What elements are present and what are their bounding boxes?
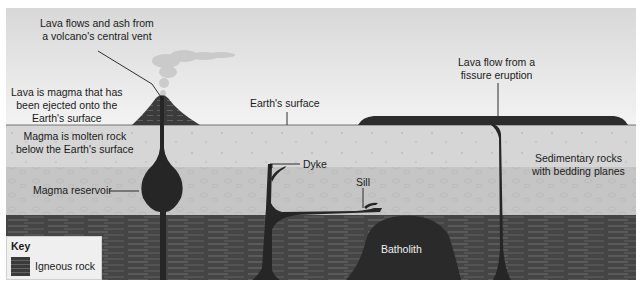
label-magma-definition: Magma is molten rock below the Earth's s… [16, 130, 134, 156]
label-central-vent: Lava flows and ash from a volcano's cent… [40, 17, 154, 43]
igneous-rock-swatch [11, 257, 30, 276]
label-sedimentary-rocks: Sedimentary rocks with bedding planes [532, 152, 625, 178]
label-earth-surface: Earth's surface [250, 97, 320, 110]
label-lava-definition: Lava is magma that has been ejected onto… [11, 86, 122, 125]
label-batholith: Batholith [381, 243, 422, 256]
label-dyke: Dyke [303, 158, 327, 171]
label-sill: Sill [356, 176, 370, 189]
igneous-rock-diagram: Lava flows and ash from a volcano's cent… [6, 8, 636, 280]
legend-key: Key Igneous rock [6, 236, 102, 280]
legend-item-igneous-rock: Igneous rock [35, 260, 95, 272]
label-fissure-eruption: Lava flow from a fissure eruption [458, 56, 535, 82]
legend-title: Key [11, 240, 30, 252]
label-magma-reservoir: Magma reservoir [33, 184, 112, 197]
fissure-lava-flow [358, 116, 628, 125]
